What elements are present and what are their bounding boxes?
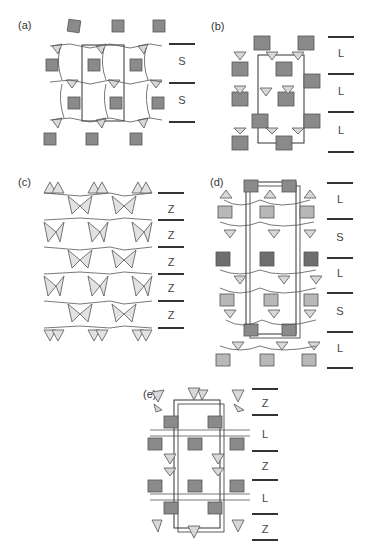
layer-label: L <box>328 85 354 97</box>
layer-label: Z <box>252 523 278 535</box>
layer-separator <box>252 513 278 515</box>
panel-e: (e) Z L Z L Z <box>120 380 300 556</box>
layer-separator <box>327 367 353 369</box>
layer-separator <box>328 111 354 113</box>
layer-label: S <box>327 305 353 317</box>
layer-separator <box>252 388 278 390</box>
layer-label: Z <box>252 460 278 472</box>
layer-separator <box>252 539 278 541</box>
layer-separator <box>327 182 353 184</box>
layer-separator <box>328 73 354 75</box>
panel-a: (a) <box>0 0 200 160</box>
layer-separator <box>252 414 278 416</box>
layer-separator <box>327 292 353 294</box>
crystal-structure-b <box>180 0 368 160</box>
panel-c: (c) <box>0 170 200 350</box>
layer-separator <box>327 331 353 333</box>
layer-separator <box>328 36 354 38</box>
layer-label: L <box>328 47 354 59</box>
panel-d: (d) L S L S <box>180 170 368 380</box>
layer-separator <box>327 257 353 259</box>
layer-separator <box>252 479 278 481</box>
panel-b: (b) L L L <box>180 0 368 160</box>
layer-separator <box>252 450 278 452</box>
layer-label: L <box>252 492 278 504</box>
layer-label: L <box>327 193 353 205</box>
layer-label: L <box>327 342 353 354</box>
layer-label: L <box>328 124 354 136</box>
layer-separator <box>327 218 353 220</box>
layer-separator <box>328 151 354 153</box>
crystal-structure-a <box>0 0 200 160</box>
layer-label: Z <box>252 397 278 409</box>
layer-label: L <box>252 428 278 440</box>
layer-label: S <box>327 231 353 243</box>
layer-label: L <box>327 267 353 279</box>
